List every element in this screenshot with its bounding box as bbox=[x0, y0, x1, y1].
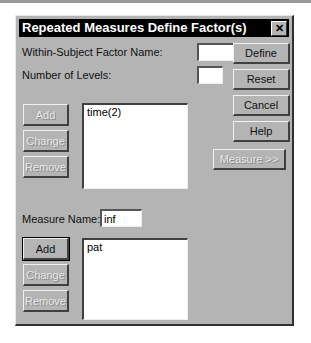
dialog-title: Repeated Measures Define Factor(s) bbox=[22, 20, 247, 35]
levels-input[interactable] bbox=[197, 66, 223, 84]
factor-remove-button[interactable]: Remove bbox=[23, 156, 69, 178]
list-item[interactable]: time(2) bbox=[87, 106, 184, 118]
reset-button[interactable]: Reset bbox=[233, 69, 290, 90]
cancel-button[interactable]: Cancel bbox=[233, 95, 290, 116]
factor-add-button[interactable]: Add bbox=[23, 104, 69, 126]
measure-add-button[interactable]: Add bbox=[23, 238, 69, 260]
title-bar: Repeated Measures Define Factor(s) ✕ bbox=[19, 19, 289, 37]
measure-remove-button[interactable]: Remove bbox=[23, 290, 69, 312]
factor-name-label: Within-Subject Factor Name: bbox=[22, 46, 163, 58]
factor-change-button[interactable]: Change bbox=[23, 130, 69, 152]
close-icon: ✕ bbox=[275, 22, 284, 34]
define-factors-dialog: Repeated Measures Define Factor(s) ✕ Wit… bbox=[15, 15, 294, 326]
measure-name-input[interactable] bbox=[100, 209, 142, 227]
measure-name-label: Measure Name: bbox=[22, 213, 100, 225]
factor-list[interactable]: time(2) bbox=[82, 103, 188, 189]
measure-change-button[interactable]: Change bbox=[23, 264, 69, 286]
top-divider bbox=[0, 0, 311, 3]
list-item[interactable]: pat bbox=[87, 241, 184, 253]
help-button[interactable]: Help bbox=[233, 121, 290, 142]
measure-button[interactable]: Measure >> bbox=[213, 149, 286, 170]
measure-list[interactable]: pat bbox=[82, 238, 188, 320]
close-button[interactable]: ✕ bbox=[271, 21, 287, 36]
levels-label: Number of Levels: bbox=[22, 69, 111, 81]
define-button[interactable]: Define bbox=[233, 43, 290, 64]
